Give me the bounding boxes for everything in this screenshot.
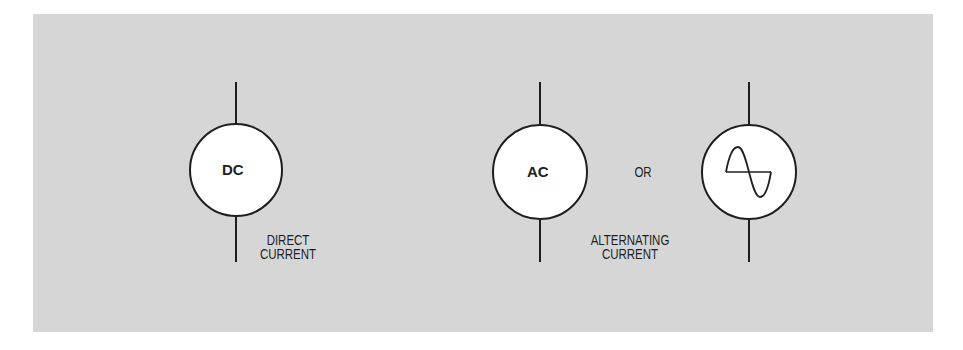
diagram-graphics [0,0,963,350]
ac-sine-source-symbol [702,82,796,262]
ac-symbol-label: AC [527,163,549,180]
ac-caption: ALTERNATING CURRENT [585,233,675,261]
dc-caption-line-2: CURRENT [255,247,321,261]
ac-caption-line-2: CURRENT [585,247,675,261]
dc-caption-line-1: DIRECT [255,233,321,247]
dc-symbol-label: DC [222,161,244,178]
or-separator: OR [633,165,653,179]
ac-caption-line-1: ALTERNATING [585,233,675,247]
dc-caption: DIRECT CURRENT [255,233,321,261]
